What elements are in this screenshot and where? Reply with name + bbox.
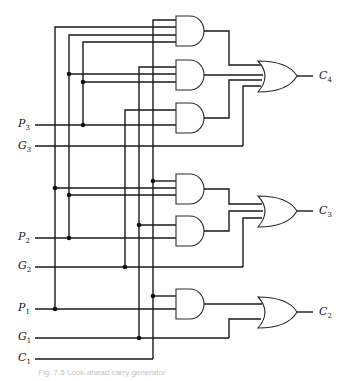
label-p2: P2 [18, 231, 30, 245]
label-c3: C3 [319, 205, 332, 219]
label-p3: P3 [18, 118, 30, 132]
label-g2: G2 [18, 260, 31, 274]
label-g3: G3 [18, 140, 31, 154]
and-gates [176, 16, 204, 319]
label-p1: P1 [18, 302, 30, 316]
circuit-diagram: P3 G3 P2 G2 P1 G1 C1 C4 C3 C2 Fig. 7.5 L… [0, 0, 342, 381]
junction-dots [53, 72, 156, 341]
circuit-schematic [0, 0, 342, 381]
label-g1: G1 [18, 331, 31, 345]
figure-caption: Fig. 7.5 Look-ahead carry generator [38, 368, 166, 377]
label-c1: C1 [18, 352, 31, 366]
label-c2: C2 [319, 306, 332, 320]
label-c4: C4 [319, 70, 332, 84]
or-gates [258, 61, 297, 328]
